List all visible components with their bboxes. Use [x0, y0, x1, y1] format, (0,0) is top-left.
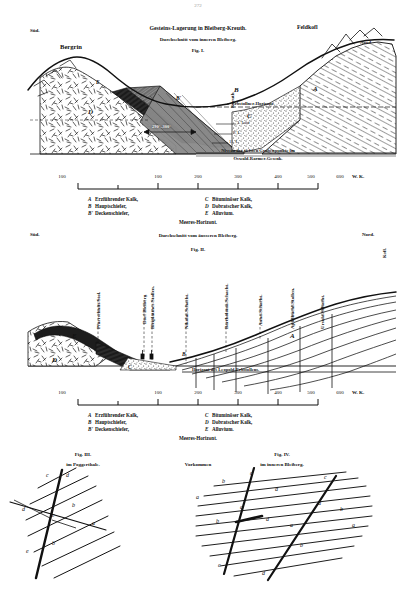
fig1-legend-name: Dobratscher Kalk,: [212, 203, 252, 209]
figure-1: Gesteins-Lagerung in Bleiberg-Kreuth. Du…: [0, 0, 397, 230]
fig2-legend-row: DDobratscher Kalk,: [205, 419, 252, 426]
fig1-level-mark-2: 9. L.: [233, 131, 241, 135]
fig1-scale-bar: [0, 180, 397, 194]
fig1-legend-row: B'Deckenschiefer,: [88, 210, 138, 217]
fig2-direction-south: Süd.: [30, 232, 40, 237]
fig2-scale-tick-3: 300: [234, 390, 242, 395]
fig2-legend-footer: Meeres-Horizont.: [179, 435, 217, 441]
fig1-legend-row: CBituminöser Kalk,: [205, 196, 252, 203]
fig1-legend-name: Erzführender Kalk,: [95, 196, 138, 202]
fig2-scale-tick-5: 500: [307, 390, 315, 395]
fig4-letter-a-center: a: [290, 522, 293, 528]
fig2-legend-name: Deckenschiefer,: [95, 426, 129, 432]
fig2-legend-key: B: [88, 419, 95, 426]
fig1-scale-tick-2: 200: [194, 174, 202, 179]
fig4-letter-c-top: c: [250, 470, 253, 476]
fig1-legend-key: C: [205, 196, 212, 203]
fig4-subtitle: im inneren Bleiberg.: [260, 462, 304, 467]
fig1-legend-row: EAlluvium.: [205, 210, 252, 217]
fig4-letter-c-vein: d: [318, 500, 321, 506]
fig2-legend-row: CBituminöser Kalk,: [205, 412, 252, 419]
fig2-strata-label-C: C: [128, 364, 132, 370]
fig2-legend-name: Dobratscher Kalk,: [212, 419, 252, 425]
fig4-letter-b-topleft: b: [222, 478, 225, 484]
fig1-scale-unit: W. K.: [352, 174, 364, 179]
fig2-scale-bar: [0, 396, 397, 410]
fig2-legend-name: Alluvium.: [212, 426, 234, 432]
fig4-letter-c-right: c: [324, 474, 327, 480]
fig2-scale-tick-2: 200: [194, 390, 202, 395]
fig1-scale-tick-5: 500: [307, 174, 315, 179]
fig2-title: Durchschnitt vom äusseren Bleiberg.: [159, 233, 238, 238]
figure-2: Durchschnitt vom äusseren Bleiberg. Fig.…: [0, 228, 397, 450]
fig3-letter-e: e: [26, 548, 29, 554]
fig2-right-edge-label: Kofl.: [382, 248, 387, 258]
fig2-legend-name: Hauptschiefer,: [95, 419, 127, 425]
fig2-scale-unit: W. K.: [352, 390, 364, 395]
fig2-scale-tick-6: 600: [336, 390, 344, 395]
fig1-legend-name: Hauptschiefer,: [95, 203, 127, 209]
fig4-letter-b-left: b: [216, 518, 219, 524]
fig4-letter-b-right: b: [340, 506, 343, 512]
fig3-figure-label: Fig. III.: [75, 452, 92, 457]
bottom-center-caption: Vorkommen: [185, 462, 211, 467]
fig1-legend-row: AErzführender Kalk,: [88, 196, 138, 203]
fig1-strata-label-Bprime: B': [176, 95, 181, 101]
fig4-letter-d-bottom: d: [262, 570, 265, 576]
fig2-scale-tick-0: 100: [58, 390, 66, 395]
fig2-legend-key: A: [88, 412, 95, 419]
fig1-legend-name: Bituminöser Kalk,: [212, 196, 252, 202]
fig2-legend-row: BHauptschiefer,: [88, 419, 138, 426]
fig4-letter-d-center: d: [266, 516, 269, 522]
fig1-scale-tick-0: 100: [58, 174, 66, 179]
fig2-legend-name: Erzführender Kalk,: [95, 412, 138, 418]
fig4-letter-a-vein: a: [240, 504, 243, 510]
fig1-legend-key: A: [88, 196, 95, 203]
fig3-letter-a: a: [92, 520, 95, 526]
fig1-strata-label-B: B: [234, 86, 239, 94]
fig1-legend-row: BHauptschiefer,: [88, 203, 138, 210]
fig1-strata-label-D: D: [88, 108, 93, 116]
fig4-letter-d-mid: d: [275, 486, 278, 492]
fig3-subtitle: im Poggerthale.: [66, 462, 100, 467]
fig2-scale-tick-1: 100: [154, 390, 162, 395]
fig1-strata-label-C: C: [247, 112, 252, 120]
fig3-letter-b2: b: [52, 540, 55, 546]
geological-plate: 272 Gesteins-Lagerung in Bleiberg-Kreuth…: [0, 0, 397, 589]
fig1-level-mark-3: 11. L.: [229, 140, 239, 144]
fig2-strata-label-E: E: [72, 332, 77, 340]
fig1-legend-name: Alluvium.: [212, 210, 234, 216]
figure-3-4-row: Fig. III. im Poggerthale. Vorkommen Fig.…: [0, 450, 397, 589]
fig2-section-drawing: [0, 258, 397, 408]
fig2-horizon-label: Horizont des Leopold-Erbstollens.: [192, 368, 259, 373]
fig3-letter-d2: d: [22, 506, 25, 512]
fig1-scale-tick-4: 400: [274, 174, 282, 179]
fig2-legend-name: Bituminöser Kalk,: [212, 412, 252, 418]
fig3-letter-c2: c: [52, 512, 55, 518]
fig1-scale-tick-3: 300: [234, 174, 242, 179]
fig2-legend-row: AErzführender Kalk,: [88, 412, 138, 419]
fig1-horizon-lower-line2: Oswald-Rarmer-Gesenk.: [234, 156, 283, 161]
fig2-legend-key: D: [205, 419, 212, 426]
fig2-legend-right: CBituminöser Kalk, DDobratscher Kalk, EA…: [205, 412, 252, 434]
fig4-letter-a-left: a: [196, 494, 199, 500]
fig4-letter-a-far-right: a: [352, 522, 355, 528]
fig4-figure-label: Fig. IV.: [274, 452, 290, 457]
fig1-scale-tick-6: 600: [336, 174, 344, 179]
fig2-strata-label-D: D: [52, 356, 57, 364]
fig1-legend-key: E: [205, 210, 212, 217]
fig2-legend-row: B'Deckenschiefer,: [88, 426, 138, 433]
fig1-scale-tick-1: 100: [154, 174, 162, 179]
fig2-legend-row: EAlluvium.: [205, 426, 252, 433]
fig1-legend-name: Deckenschiefer,: [95, 210, 129, 216]
fig1-legend-key: B': [88, 210, 95, 217]
fig2-direction-north: Nord.: [362, 232, 374, 237]
fig1-dip-annotation: 290°–300°: [152, 125, 171, 129]
fig2-strata-label-B: B: [182, 351, 186, 357]
fig1-strata-label-A: A: [313, 85, 318, 93]
fig1-section-drawing: [0, 0, 397, 175]
fig2-legend-key: E: [205, 426, 212, 433]
fig3-letter-b1: b: [72, 502, 75, 508]
fig1-legend-row: DDobratscher Kalk,: [205, 203, 252, 210]
fig3-letter-d: d: [66, 472, 69, 478]
